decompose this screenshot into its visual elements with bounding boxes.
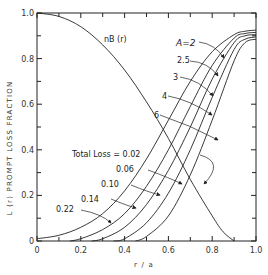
annotation-arrow: [131, 185, 160, 195]
y-tick-label: 0.4: [21, 146, 34, 155]
x-tick-label: 0.2: [74, 246, 87, 255]
annotation-arrow: [81, 210, 111, 223]
y-axis-title: L (r) PROMPT LOSS FRACTION: [6, 81, 14, 216]
x-tick-label: 1.0: [250, 246, 263, 255]
y-tick-label: 0: [29, 237, 34, 246]
annotation-arrow: [168, 96, 212, 115]
y-tick-label: 0.6: [21, 100, 34, 109]
loss-curve-5: [136, 39, 256, 241]
annotation-labels: nB (r) A=2 2.5 3 4 6 Total Loss = 0.02 0…: [56, 35, 196, 214]
a2-label: A=2: [175, 38, 196, 48]
a3-label: 3: [173, 73, 178, 82]
y-tick-label: 0.2: [21, 191, 34, 200]
loss-0-22-label: 0.22: [56, 205, 74, 214]
a2-5-label: 2.5: [177, 56, 190, 65]
x-axis-title: r / a: [134, 261, 154, 269]
loss-0-02-label: Total Loss = 0.02: [71, 150, 140, 159]
loss-0-10-label: 0.10: [101, 180, 119, 189]
a4-label: 4: [162, 92, 167, 101]
x-tick-label: 0: [34, 246, 39, 255]
x-tick-label: 0.4: [118, 246, 131, 255]
a6-label: 6: [154, 111, 159, 120]
loss-0-14-label: 0.14: [81, 195, 99, 204]
loss-0-06-label: 0.06: [116, 165, 134, 174]
annotation-arrow: [111, 199, 136, 208]
y-tick-label: 0.8: [21, 55, 34, 64]
loss-curve-3: [92, 35, 256, 241]
chart: 00.20.40.60.81.000.20.40.60.81.0 nB (r) …: [0, 0, 268, 275]
annotation-arrow: [180, 77, 213, 96]
x-tick-label: 0.6: [162, 246, 175, 255]
loss-curve-2: [70, 32, 256, 241]
x-tick-label: 0.8: [206, 246, 219, 255]
y-tick-label: 1.0: [21, 9, 34, 18]
nb-curve-label: nB (r): [104, 35, 127, 44]
annotation-arrow: [200, 155, 214, 184]
